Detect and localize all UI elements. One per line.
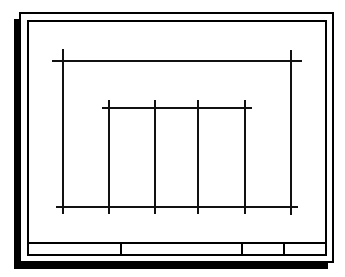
structural-grid — [0, 0, 345, 277]
